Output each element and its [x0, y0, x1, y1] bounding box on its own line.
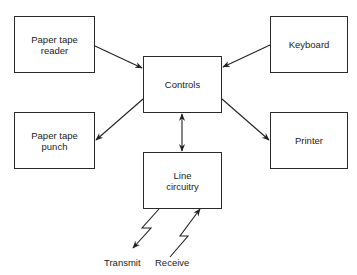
keyboard-label: Keyboard	[289, 39, 330, 50]
arrow-controls-to-printer	[222, 99, 269, 140]
controls-box: Controls	[143, 56, 222, 113]
paper-tape-reader-label: Paper tape reader	[31, 34, 77, 56]
paper-tape-punch-label: Paper tape punch	[31, 130, 77, 152]
controls-label: Controls	[165, 79, 200, 90]
transmit-label: Transmit	[104, 257, 141, 268]
paper-tape-punch-box: Paper tape punch	[14, 112, 95, 169]
keyboard-box: Keyboard	[270, 16, 348, 73]
arrow-keyboard-to-controls	[223, 45, 270, 67]
paper-tape-reader-box: Paper tape reader	[14, 16, 95, 73]
printer-box: Printer	[270, 112, 348, 169]
receive-label: Receive	[155, 257, 189, 268]
arrow-controls-to-punch	[96, 99, 143, 140]
line-circuitry-box: Line circuitry	[143, 152, 222, 209]
lightning-receive	[170, 209, 200, 257]
lightning-transmit	[133, 209, 159, 248]
printer-label: Printer	[295, 135, 323, 146]
line-circuitry-label: Line circuitry	[166, 170, 199, 192]
arrow-reader-to-controls	[95, 46, 142, 68]
